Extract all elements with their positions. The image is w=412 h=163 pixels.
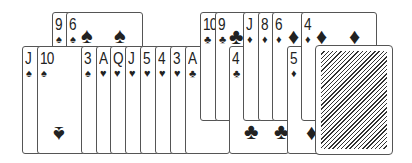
suit-icon: ♠ [70,34,76,45]
card-rank: 3 [173,50,180,67]
card-rank: 9 [55,16,62,33]
suit-icon: ♣ [219,34,226,45]
suit-icon: ♥ [114,68,121,79]
suit-icon: ♣ [189,68,196,79]
card-rank: J [128,50,134,67]
card-rank: 3 [84,50,91,67]
suit-pip-icon: ♣ [244,121,258,143]
card-rank: 6 [275,16,282,33]
card-rank: J [25,50,31,67]
suit-icon: ♦ [291,68,297,79]
suit-icon: ♥ [144,68,151,79]
suit-pip-icon: ♦ [349,26,360,48]
suit-pip-icon: ♠ [114,25,126,47]
card-rank: 5 [143,50,150,67]
card-rank: Q [113,50,123,67]
suit-pip-icon: ♣ [229,26,243,48]
card-rank: A [188,50,196,67]
card-rank: 4 [304,16,311,33]
card-rank: 5 [290,50,297,67]
suit-icon: ♠ [26,68,32,79]
card-rank: 9 [218,16,225,33]
suit-icon: ♥ [174,68,181,79]
suit-pip-icon: ♠ [53,123,65,145]
card-rank: A [99,50,107,67]
card-rank: 6 [69,16,76,33]
suit-icon: ♥ [159,68,166,79]
card-rank: 10 [40,50,54,67]
suit-icon: ♠ [85,68,91,79]
card-rank: J [246,16,252,33]
card-rank: 4 [158,50,165,67]
suit-icon: ♦ [276,34,282,45]
suit-icon: ♦ [247,34,253,45]
suit-icon: ♥ [129,68,136,79]
suit-icon: ♦ [305,34,311,45]
card-rank: 8 [261,16,268,33]
card-rank: 4 [232,50,239,67]
suit-icon: ♠ [41,68,47,79]
deck-card-back[interactable] [316,46,392,154]
suit-icon: ♠ [56,34,62,45]
suit-icon: ♦ [262,34,268,45]
suit-pip-icon: ♦ [288,26,299,48]
suit-icon: ♣ [233,68,240,79]
suit-icon: ♥ [100,68,107,79]
suit-icon: ♣ [204,34,211,45]
suit-pip-icon: ♠ [81,25,93,47]
suit-pip-icon: ♦ [316,26,327,48]
